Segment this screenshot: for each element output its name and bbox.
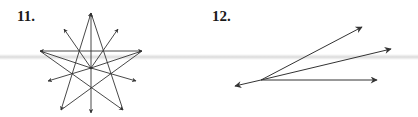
- figures-canvas: [0, 0, 418, 117]
- figure-12-rays: [235, 27, 391, 86]
- figure-11-star: [40, 13, 142, 113]
